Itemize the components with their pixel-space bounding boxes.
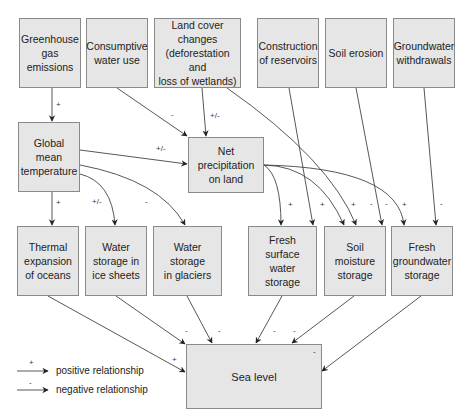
sign-soilmoisture-sealevel: -: [293, 326, 296, 335]
edge-soilmoisture-sealevel: [292, 296, 354, 343]
sign-greenhouse-temp: +: [56, 100, 61, 109]
node-label: Soil erosion: [329, 46, 384, 60]
sign-temp-icesheets: +/-: [92, 197, 102, 206]
edge-consumptive-netprecip: [117, 88, 187, 136]
node-label: Land cover changes (deforestation and lo…: [157, 18, 238, 88]
sign-withdrawals-freshgw: -: [440, 199, 443, 208]
sign-temp-thermal: +: [56, 198, 61, 207]
node-net-precipitation-on-land: Net precipitation on land: [188, 137, 264, 193]
sign-landcover-soil: +: [351, 200, 356, 209]
node-label: Fresh surface water storage: [251, 233, 314, 289]
sign-icesheets-sealevel: -: [185, 326, 188, 335]
edge-freshgw-sealevel: [322, 296, 421, 371]
node-water-storage-ice-sheets: Water storage in ice sheets: [85, 226, 147, 296]
node-label: Water storage in ice sheets: [92, 240, 139, 282]
edge-icesheets-sealevel: [116, 296, 185, 344]
sign-freshgw-sealevel: -: [313, 347, 316, 356]
edge-gwwithdrawals-freshgw: [424, 88, 436, 225]
sign-precip-freshgw: +: [402, 200, 407, 209]
node-groundwater-withdrawals: Groundwater withdrawals: [393, 18, 455, 88]
node-construction-of-reservoirs: Construction of reservoirs: [257, 18, 319, 88]
node-label: Water storage in glaciers: [156, 240, 219, 282]
edge-thermal-sealevel: [48, 296, 185, 372]
edge-temperature-netprecip: [80, 150, 187, 164]
edge-glaciers-sealevel: [187, 296, 212, 343]
node-water-storage-glaciers: Water storage in glaciers: [153, 226, 222, 296]
edge-netprecip-freshgw: [264, 165, 404, 225]
node-label: Thermal expansion of oceans: [24, 240, 72, 282]
node-label: Groundwater withdrawals: [394, 39, 455, 67]
node-soil-moisture-storage: Soil moisture storage: [324, 226, 386, 296]
edge-erosion-soilmoisture: [356, 88, 382, 225]
node-label: Soil moisture storage: [327, 240, 383, 282]
node-soil-erosion: Soil erosion: [325, 18, 387, 88]
node-label: Construction of reservoirs: [259, 39, 318, 67]
legend-negative-label: negative relationship: [56, 384, 148, 395]
sign-glaciers-sealevel: -: [218, 326, 221, 335]
sign-temp-precip: +/-: [156, 144, 166, 153]
edge-landcover-netprecip: [202, 88, 206, 136]
sign-erosion-soil: -: [385, 199, 388, 208]
sign-reservoirs-surface: +: [320, 200, 325, 209]
sign-precip-soil: -: [370, 199, 373, 208]
legend-negative-sign: -: [29, 378, 32, 387]
edge-temperature-glaciers: [80, 165, 185, 225]
node-label: Consumptive water use: [86, 39, 147, 67]
edge-netprecip-surface: [264, 165, 281, 225]
node-label: Greenhouse gas emissions: [21, 32, 79, 74]
sign-consumptive-precip: -: [171, 110, 174, 119]
node-fresh-surface-water: Fresh surface water storage: [248, 226, 317, 296]
node-thermal-expansion: Thermal expansion of oceans: [17, 226, 79, 296]
edge-surface-sealevel: [256, 296, 282, 343]
node-label: Sea level: [231, 370, 276, 384]
sign-landcover-precip: +/-: [210, 111, 220, 120]
sign-thermal-sealevel: +: [172, 355, 177, 364]
node-consumptive-water-use: Consumptive water use: [86, 18, 148, 88]
node-label: Net precipitation on land: [191, 144, 261, 186]
node-greenhouse-gas-emissions: Greenhouse gas emissions: [19, 18, 81, 88]
sign-precip-surface: +: [288, 200, 293, 209]
node-global-mean-temperature: Global mean temperature: [18, 122, 80, 192]
node-label: Fresh groundwater storage: [393, 240, 451, 282]
node-label: Global mean temperature: [21, 136, 78, 178]
legend-positive-sign: +: [29, 358, 34, 367]
node-fresh-groundwater-storage: Fresh groundwater storage: [391, 226, 453, 296]
sign-surface-sealevel: -: [273, 326, 276, 335]
node-sea-level: Sea level: [186, 344, 322, 409]
node-land-cover-changes: Land cover changes (deforestation and lo…: [154, 18, 241, 88]
sign-temp-glaciers: -: [145, 197, 148, 206]
legend-positive-label: positive relationship: [56, 365, 144, 376]
